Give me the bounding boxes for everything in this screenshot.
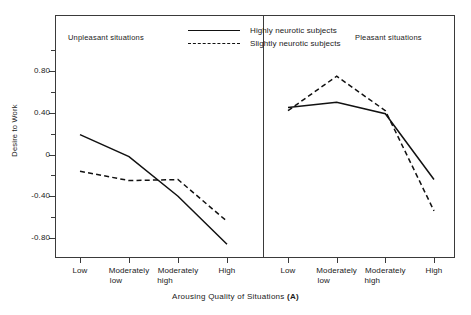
data-lines	[0, 0, 471, 315]
series-line-unpleasant-slightly	[80, 171, 227, 221]
chart-figure: Desire to Work Unpleasant situations Ple…	[0, 0, 471, 315]
x-axis-title-text: Arousing Quality of Situations	[172, 292, 284, 301]
x-axis-title-symbol: (A)	[287, 292, 299, 301]
series-line-pleasant-highly	[288, 102, 434, 179]
series-line-pleasant-slightly	[288, 76, 434, 211]
series-line-unpleasant-highly	[80, 135, 227, 245]
x-axis-title: Arousing Quality of Situations (A)	[0, 292, 471, 301]
